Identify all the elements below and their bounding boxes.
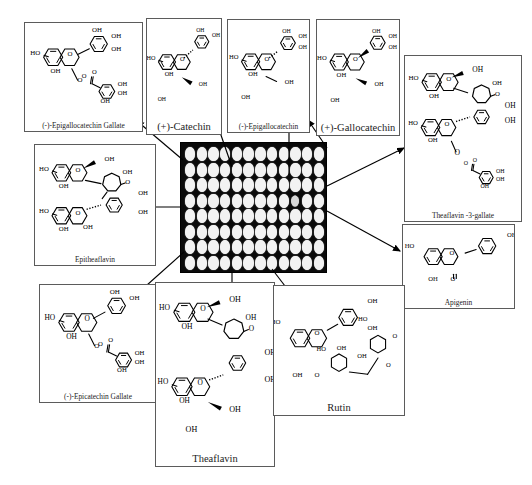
well-r2-c10[interactable] bbox=[290, 163, 300, 177]
well-r1-c1[interactable] bbox=[185, 147, 195, 161]
well-r8-c4[interactable] bbox=[220, 256, 230, 270]
well-r3-c5[interactable] bbox=[232, 178, 242, 192]
well-r6-c5[interactable] bbox=[232, 225, 242, 239]
well-r8-c9[interactable] bbox=[279, 256, 289, 270]
well-r7-c10[interactable] bbox=[290, 240, 300, 254]
well-r8-c7[interactable] bbox=[255, 256, 265, 270]
well-r6-c4[interactable] bbox=[220, 225, 230, 239]
well-r1-c6[interactable] bbox=[243, 147, 253, 161]
well-r4-c7[interactable] bbox=[255, 194, 265, 208]
well-r3-c12[interactable] bbox=[314, 178, 324, 192]
well-r5-c3[interactable] bbox=[208, 209, 218, 223]
well-r2-c9[interactable] bbox=[279, 163, 289, 177]
well-r7-c7[interactable] bbox=[255, 240, 265, 254]
well-r5-c10[interactable] bbox=[290, 209, 300, 223]
well-r2-c12[interactable] bbox=[314, 163, 324, 177]
molecule-diagram-gallocatechin: HOOHOOHOHOHOHOH bbox=[317, 20, 399, 135]
well-r3-c7[interactable] bbox=[255, 178, 265, 192]
well-r5-c9[interactable] bbox=[279, 209, 289, 223]
well-r5-c8[interactable] bbox=[267, 209, 277, 223]
well-r5-c1[interactable] bbox=[185, 209, 195, 223]
well-r3-c1[interactable] bbox=[185, 178, 195, 192]
well-r4-c10[interactable] bbox=[291, 195, 299, 206]
well-r4-c8[interactable] bbox=[267, 194, 277, 208]
well-r6-c2[interactable] bbox=[197, 225, 207, 239]
well-r7-c1[interactable] bbox=[185, 240, 195, 254]
well-r4-c6[interactable] bbox=[243, 194, 253, 208]
well-r1-c3[interactable] bbox=[208, 147, 218, 161]
well-r2-c2[interactable] bbox=[197, 163, 207, 177]
well-r7-c12[interactable] bbox=[314, 240, 324, 254]
well-r4-c11[interactable] bbox=[302, 194, 312, 208]
well-r8-c11[interactable] bbox=[302, 256, 312, 270]
well-r8-c6[interactable] bbox=[243, 256, 253, 270]
well-r1-c7[interactable] bbox=[255, 147, 265, 161]
well-r3-c9[interactable] bbox=[279, 178, 289, 192]
well-r1-c4[interactable] bbox=[220, 147, 230, 161]
well-r6-c7[interactable] bbox=[255, 225, 265, 239]
well-r6-c11[interactable] bbox=[302, 225, 312, 239]
well-r2-c6[interactable] bbox=[243, 163, 253, 177]
well-r4-c5[interactable] bbox=[232, 194, 242, 208]
well-r7-c8[interactable] bbox=[267, 240, 277, 254]
well-r1-c5[interactable] bbox=[232, 147, 242, 161]
well-r3-c3[interactable] bbox=[208, 178, 218, 192]
well-r4-c2[interactable] bbox=[197, 194, 207, 208]
svg-text:OH: OH bbox=[129, 294, 139, 302]
well-r8-c1[interactable] bbox=[185, 256, 195, 270]
well-r6-c6[interactable] bbox=[243, 225, 253, 239]
well-r8-c12[interactable] bbox=[314, 256, 324, 270]
well-r4-c12[interactable] bbox=[314, 194, 324, 208]
well-r6-c9[interactable] bbox=[279, 225, 289, 239]
well-r1-c8[interactable] bbox=[267, 147, 277, 161]
well-r7-c4[interactable] bbox=[220, 240, 230, 254]
well-r6-c12[interactable] bbox=[314, 225, 324, 239]
well-r5-c11[interactable] bbox=[302, 209, 312, 223]
well-r2-c4[interactable] bbox=[220, 163, 230, 177]
well-r7-c6[interactable] bbox=[243, 240, 253, 254]
well-r6-c1[interactable] bbox=[185, 225, 195, 239]
well-r5-c7[interactable] bbox=[255, 209, 265, 223]
well-r5-c2[interactable] bbox=[197, 209, 207, 223]
well-r3-c11[interactable] bbox=[302, 178, 312, 192]
well-r1-c12[interactable] bbox=[314, 147, 324, 161]
well-r3-c10[interactable] bbox=[290, 178, 300, 192]
well-r7-c9[interactable] bbox=[279, 240, 289, 254]
well-r2-c5[interactable] bbox=[232, 163, 242, 177]
well-r2-c11[interactable] bbox=[302, 163, 312, 177]
well-r8-c8[interactable] bbox=[267, 256, 277, 270]
well-r7-c3[interactable] bbox=[208, 240, 218, 254]
well-r5-c12[interactable] bbox=[314, 209, 324, 223]
well-r5-c5[interactable] bbox=[232, 209, 242, 223]
well-r8-c3[interactable] bbox=[208, 256, 218, 270]
well-r2-c7[interactable] bbox=[255, 163, 265, 177]
well-r1-c9[interactable] bbox=[279, 147, 289, 161]
well-r7-c11[interactable] bbox=[302, 240, 312, 254]
well-r8-c10[interactable] bbox=[290, 256, 300, 270]
well-r7-c5[interactable] bbox=[232, 240, 242, 254]
well-r8-c5[interactable] bbox=[232, 256, 242, 270]
well-r7-c2[interactable] bbox=[197, 240, 207, 254]
svg-text:OH: OH bbox=[138, 208, 148, 215]
well-r2-c3[interactable] bbox=[208, 163, 218, 177]
well-r1-c11[interactable] bbox=[302, 147, 312, 161]
well-r5-c4[interactable] bbox=[220, 209, 230, 223]
well-r1-c2[interactable] bbox=[197, 147, 207, 161]
well-r4-c3[interactable] bbox=[208, 194, 218, 208]
svg-text:HO: HO bbox=[158, 377, 169, 386]
well-r3-c4[interactable] bbox=[220, 178, 230, 192]
well-r1-c10[interactable] bbox=[290, 147, 300, 161]
well-r4-c9[interactable] bbox=[279, 194, 289, 208]
well-r2-c1[interactable] bbox=[185, 163, 195, 177]
well-r6-c10[interactable] bbox=[290, 225, 300, 239]
well-r6-c8[interactable] bbox=[267, 225, 277, 239]
well-r5-c6[interactable] bbox=[243, 209, 253, 223]
well-r4-c4[interactable] bbox=[220, 194, 230, 208]
well-r3-c6[interactable] bbox=[243, 178, 253, 192]
well-r6-c3[interactable] bbox=[208, 225, 218, 239]
well-r3-c8[interactable] bbox=[267, 178, 277, 192]
well-r2-c8[interactable] bbox=[267, 163, 277, 177]
well-r8-c2[interactable] bbox=[197, 256, 207, 270]
well-r4-c1[interactable] bbox=[185, 194, 195, 208]
well-r3-c2[interactable] bbox=[197, 178, 207, 192]
